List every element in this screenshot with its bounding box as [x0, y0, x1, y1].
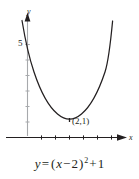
y-axis-tick-label-5: 5: [18, 39, 23, 48]
equation-caption: y=(x−2)2+1: [0, 157, 139, 170]
equation-equals: =: [41, 156, 50, 171]
parabola-figure: y x 5 (2,1) y=(x−2)2+1: [0, 0, 139, 179]
x-axis-label: x: [129, 134, 133, 142]
parabola-plot: [0, 0, 139, 179]
x-axis-arrowhead: [117, 134, 127, 141]
y-axis-label: y: [27, 8, 31, 16]
parabola-curve: [22, 21, 113, 120]
equation-k-value: 1: [98, 156, 105, 171]
equation-h-value: 2: [71, 156, 78, 171]
equation-lhs: y: [35, 156, 41, 171]
equation-plus-sign: +: [88, 156, 97, 171]
vertex-point-label: (2,1): [72, 117, 89, 126]
